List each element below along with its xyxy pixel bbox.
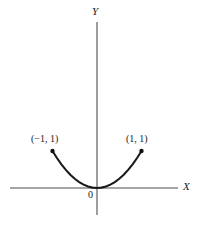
origin-label: 0 <box>88 190 93 200</box>
parabola-figure: Y X 0 (−1, 1) (1, 1) <box>0 0 201 228</box>
left-point-label: (−1, 1) <box>31 134 58 144</box>
x-axis-label: X <box>183 181 190 192</box>
plot-canvas <box>0 0 201 228</box>
left-endpoint-dot <box>50 149 54 153</box>
y-axis-label: Y <box>92 6 98 17</box>
right-endpoint-dot <box>139 149 143 153</box>
right-point-label: (1, 1) <box>126 134 148 144</box>
